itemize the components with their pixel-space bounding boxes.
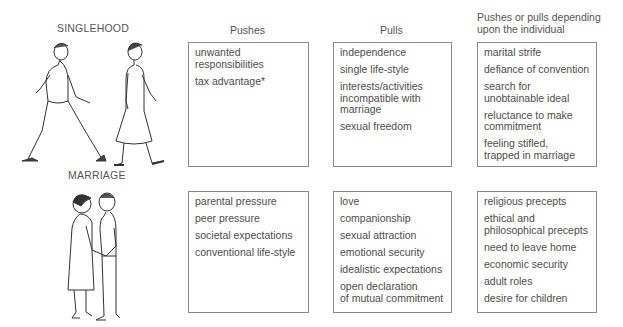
list-item: independence: [340, 47, 445, 59]
list-item: ethical and philosophical precepts: [484, 213, 590, 236]
singlehood-depending-box: marital strife defiance of convention se…: [477, 42, 597, 167]
list-item: defiance of convention: [484, 64, 590, 76]
marriage-pulls-box: love companionship sexual attraction emo…: [333, 191, 452, 313]
marriage-illustration-icon: [62, 188, 162, 327]
list-item: religious precepts: [484, 196, 590, 208]
header-pushes: Pushes: [230, 24, 265, 36]
list-item: sexual attraction: [340, 230, 445, 242]
header-pulls: Pulls: [380, 24, 403, 36]
singlehood-pulls-box: independence single life-style interests…: [333, 42, 452, 167]
list-item: conventional life-style: [195, 247, 302, 259]
header-depending: Pushes or pulls depending upon the indiv…: [477, 11, 601, 35]
list-item: peer pressure: [195, 213, 302, 225]
list-item: tax advantage*: [195, 76, 302, 88]
list-item: open declaration of mutual commitment: [340, 281, 445, 304]
list-item: love: [340, 196, 445, 208]
list-item: marital strife: [484, 47, 590, 59]
marriage-pushes-box: parental pressure peer pressure societal…: [188, 191, 309, 313]
list-item: desire for children: [484, 293, 590, 305]
list-item: reluctance to make commitment: [484, 110, 590, 133]
list-item: idealistic expectations: [340, 264, 445, 276]
list-item: need to leave home: [484, 242, 590, 254]
list-item: parental pressure: [195, 196, 302, 208]
list-item: sexual freedom: [340, 121, 445, 133]
list-item: unwanted responsibilities: [195, 47, 302, 70]
list-item: societal expectations: [195, 230, 302, 242]
list-item: interests/activities incompatible with m…: [340, 81, 445, 116]
marriage-depending-box: religious precepts ethical and philosoph…: [477, 191, 597, 313]
list-item: companionship: [340, 213, 445, 225]
list-item: search for unobtainable ideal: [484, 81, 590, 104]
list-item: adult roles: [484, 276, 590, 288]
list-item: emotional security: [340, 247, 445, 259]
list-item: economic security: [484, 259, 590, 271]
list-item: feeling stifled, trapped in marriage: [484, 138, 590, 161]
singlehood-label: SINGLEHOOD: [57, 22, 129, 34]
singlehood-pushes-box: unwanted responsibilities tax advantage*: [188, 42, 309, 167]
singlehood-illustration-icon: [10, 35, 180, 175]
list-item: single life-style: [340, 64, 445, 76]
